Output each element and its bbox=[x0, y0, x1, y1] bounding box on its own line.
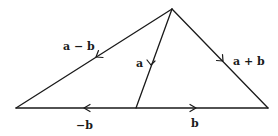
label-a: a bbox=[136, 58, 143, 69]
label-b: b bbox=[191, 118, 199, 129]
label-neg-b: −b bbox=[76, 120, 93, 131]
label-a-minus-b: a − b bbox=[63, 41, 95, 52]
edge-a-minus-b bbox=[16, 9, 172, 108]
label-a-plus-b: a + b bbox=[233, 56, 265, 67]
